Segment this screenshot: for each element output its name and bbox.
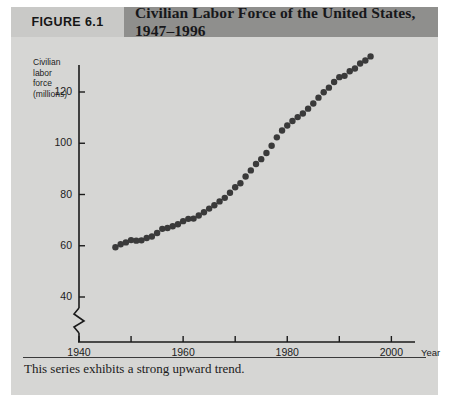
figure-title-box: Civilian Labor Force of the United State… bbox=[124, 7, 438, 37]
chart-canvas bbox=[11, 37, 438, 357]
data-point bbox=[263, 150, 269, 156]
data-point bbox=[201, 209, 207, 215]
data-point bbox=[321, 89, 327, 95]
data-point bbox=[274, 134, 280, 140]
data-point bbox=[248, 167, 254, 173]
data-point bbox=[310, 100, 316, 106]
data-point bbox=[352, 65, 358, 71]
data-point bbox=[227, 190, 233, 196]
data-point bbox=[154, 230, 160, 236]
data-point bbox=[222, 195, 228, 201]
data-point bbox=[294, 114, 300, 120]
caption-divider bbox=[23, 357, 426, 358]
data-point bbox=[211, 202, 217, 208]
data-point bbox=[216, 198, 222, 204]
data-point bbox=[362, 57, 368, 63]
data-point bbox=[232, 184, 238, 190]
data-point bbox=[289, 118, 295, 124]
data-point bbox=[331, 79, 337, 85]
figure-panel: FIGURE 6.1 Civilian Labor Force of the U… bbox=[11, 7, 438, 395]
data-point bbox=[305, 105, 311, 111]
figure-caption: This series exhibits a strong upward tre… bbox=[24, 361, 245, 377]
chart-plot-region: Civilianlaborforce(millions) 40608010012… bbox=[11, 37, 438, 357]
data-series-civilian-labor-force bbox=[112, 53, 374, 250]
data-point bbox=[284, 122, 290, 128]
figure-header: FIGURE 6.1 Civilian Labor Force of the U… bbox=[11, 7, 438, 37]
data-point bbox=[253, 161, 259, 167]
data-point bbox=[237, 180, 243, 186]
data-point bbox=[367, 53, 373, 59]
data-point bbox=[268, 143, 274, 149]
figure-title: Civilian Labor Force of the United State… bbox=[135, 4, 438, 40]
data-point bbox=[279, 127, 285, 133]
data-point bbox=[326, 84, 332, 90]
data-point bbox=[242, 173, 248, 179]
figure-number-label: FIGURE 6.1 bbox=[31, 15, 103, 29]
data-point bbox=[258, 156, 264, 162]
data-point bbox=[341, 73, 347, 79]
data-point bbox=[315, 94, 321, 100]
data-point bbox=[149, 233, 155, 239]
y-axis-break-symbol bbox=[74, 308, 84, 333]
figure-caption-area: This series exhibits a strong upward tre… bbox=[11, 357, 438, 395]
figure-number-box: FIGURE 6.1 bbox=[11, 7, 124, 37]
data-point bbox=[300, 110, 306, 116]
